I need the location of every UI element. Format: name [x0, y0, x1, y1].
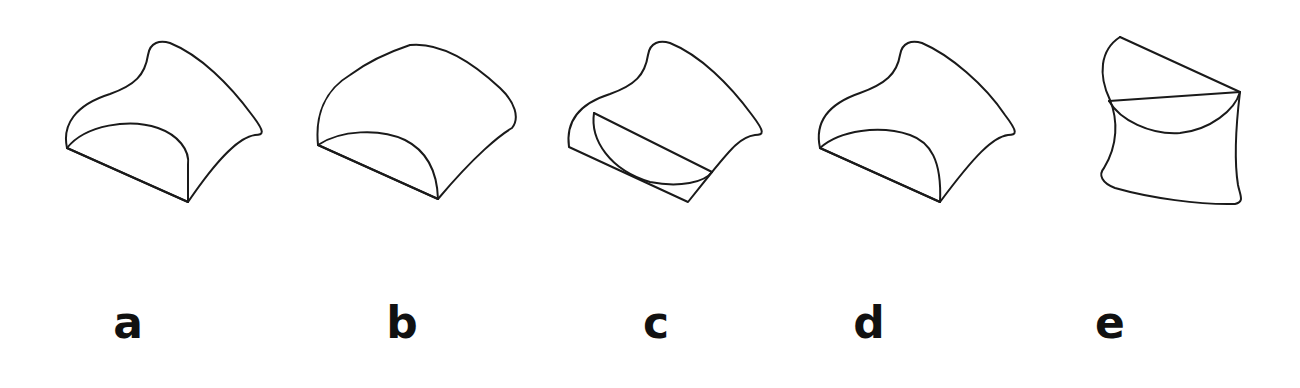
shape-d[interactable] — [819, 42, 1015, 202]
label-e: e — [1080, 298, 1140, 348]
shape-b[interactable] — [317, 45, 515, 199]
label-c: c — [626, 298, 686, 348]
shape-c[interactable] — [568, 42, 761, 202]
label-d: d — [839, 298, 899, 348]
shape-a[interactable] — [66, 42, 262, 202]
shape-e[interactable] — [1101, 37, 1241, 204]
label-a: a — [98, 298, 158, 348]
label-b: b — [372, 298, 432, 348]
